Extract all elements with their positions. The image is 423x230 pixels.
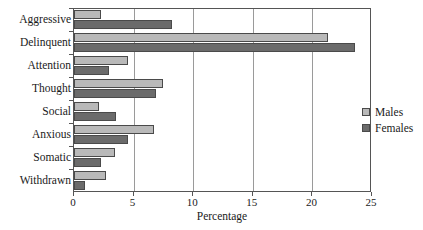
bar-males-anxious — [74, 125, 154, 134]
x-axis-tick-label: 15 — [232, 197, 272, 208]
bar-group — [74, 78, 370, 101]
plot-area — [73, 8, 371, 192]
bar-males-delinquent — [74, 33, 328, 42]
x-axis-tick-label: 0 — [53, 197, 93, 208]
bar-females-withdrawn — [74, 181, 85, 190]
y-axis-label-somatic: Somatic — [0, 152, 71, 164]
bar-group — [74, 55, 370, 78]
x-axis-tick-label: 25 — [351, 197, 391, 208]
y-axis-label-attention: Attention — [0, 60, 71, 72]
bar-females-attention — [74, 66, 109, 75]
x-axis-tick-label: 20 — [291, 197, 331, 208]
legend-swatch-females — [362, 124, 370, 132]
bar-males-social — [74, 102, 99, 111]
y-axis-label-withdrawn: Withdrawn — [0, 175, 71, 187]
bar-females-somatic — [74, 158, 101, 167]
bar-males-aggressive — [74, 10, 101, 19]
x-axis-title: Percentage — [73, 210, 371, 222]
bar-chart: AggressiveDelinquentAttentionThoughtSoci… — [0, 0, 423, 230]
legend-swatch-males — [362, 108, 370, 116]
bar-females-thought — [74, 89, 156, 98]
legend-item-females: Females — [362, 122, 413, 134]
y-axis-label-anxious: Anxious — [0, 129, 71, 141]
legend-label: Males — [375, 106, 403, 118]
bar-females-aggressive — [74, 20, 172, 29]
legend: MalesFemales — [362, 106, 413, 138]
x-axis-tick-label: 5 — [113, 197, 153, 208]
bar-females-anxious — [74, 135, 128, 144]
bar-group — [74, 170, 370, 193]
legend-item-males: Males — [362, 106, 413, 118]
bar-males-attention — [74, 56, 128, 65]
y-axis-label-thought: Thought — [0, 83, 71, 95]
y-axis-label-social: Social — [0, 106, 71, 118]
y-axis-label-delinquent: Delinquent — [0, 37, 71, 49]
y-axis-label-aggressive: Aggressive — [0, 14, 71, 26]
bar-group — [74, 101, 370, 124]
bar-group — [74, 9, 370, 32]
legend-label: Females — [375, 122, 413, 134]
bar-females-delinquent — [74, 43, 355, 52]
bar-group — [74, 147, 370, 170]
bar-males-thought — [74, 79, 163, 88]
bar-females-social — [74, 112, 116, 121]
bar-males-somatic — [74, 148, 115, 157]
bar-males-withdrawn — [74, 171, 106, 180]
bar-group — [74, 32, 370, 55]
bar-group — [74, 124, 370, 147]
x-axis-tick-label: 10 — [172, 197, 212, 208]
bars-layer — [74, 9, 370, 191]
